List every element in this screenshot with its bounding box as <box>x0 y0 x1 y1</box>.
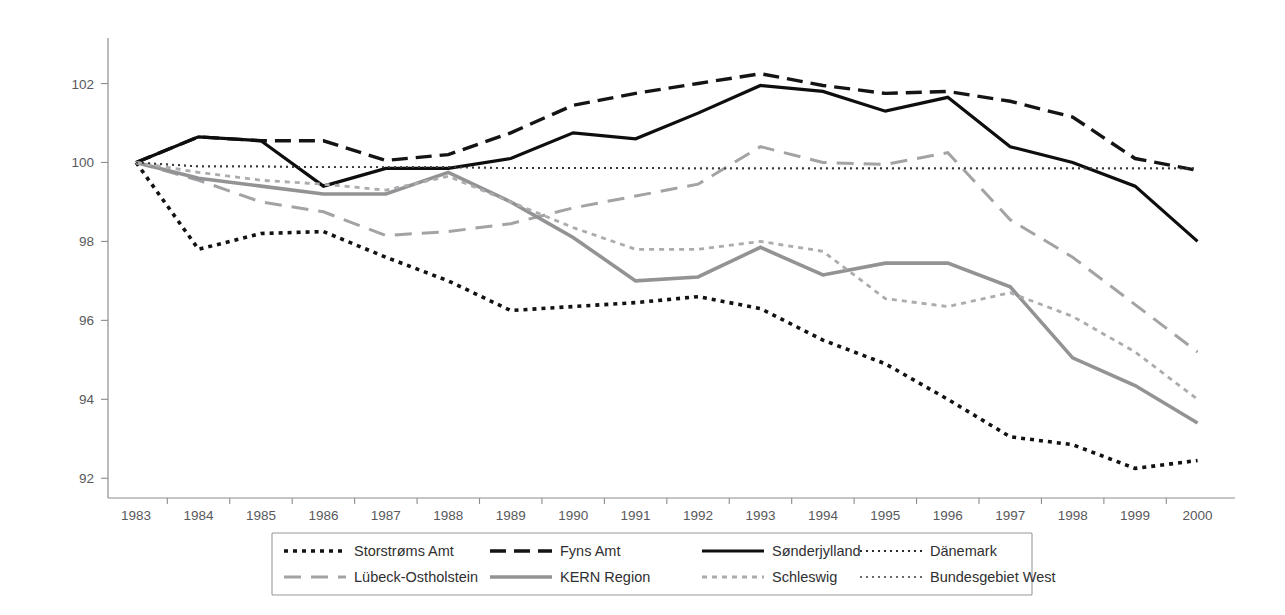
x-tick-label: 1988 <box>433 508 463 523</box>
x-tick-label: 1994 <box>808 508 839 523</box>
series-line-1 <box>136 74 1197 171</box>
series-line-6 <box>136 162 1197 399</box>
y-tick-label: 98 <box>79 234 94 249</box>
x-tick-label: 1998 <box>1058 508 1088 523</box>
x-tick-label: 1986 <box>308 508 338 523</box>
x-tick-label: 1991 <box>621 508 651 523</box>
x-tick-label: 1992 <box>683 508 713 523</box>
legend-label-6: Schleswig <box>772 569 837 585</box>
legend-label-2: Sønderjylland <box>772 543 861 559</box>
y-tick-label: 102 <box>71 77 94 92</box>
x-tick-label: 1989 <box>496 508 526 523</box>
x-axis: 1983198419851986198719881989199019911992… <box>108 498 1235 523</box>
x-tick-label: 1984 <box>184 508 215 523</box>
legend-label-7: Bundesgebiet West <box>930 569 1055 585</box>
x-tick-label: 1990 <box>558 508 588 523</box>
y-tick-label: 92 <box>79 471 94 486</box>
x-tick-label: 1996 <box>933 508 963 523</box>
y-axis: 92949698100102 <box>71 38 108 498</box>
chart-figure: 92949698100102 1983198419851986198719881… <box>0 0 1285 615</box>
legend-label-5: KERN Region <box>560 569 650 585</box>
x-tick-label: 1987 <box>371 508 401 523</box>
y-tick-label: 96 <box>79 313 94 328</box>
line-chart-canvas: 92949698100102 1983198419851986198719881… <box>0 0 1285 615</box>
y-tick-group: 92949698100102 <box>71 77 108 487</box>
chart-legend: Storstrøms AmtFyns AmtSønderjyllandDänem… <box>272 533 1055 595</box>
x-tick-label: 1999 <box>1120 508 1150 523</box>
legend-label-1: Fyns Amt <box>560 543 620 559</box>
y-tick-label: 94 <box>79 392 95 407</box>
x-tick-label: 1997 <box>995 508 1025 523</box>
y-tick-label: 100 <box>71 155 94 170</box>
x-tick-label: 1995 <box>870 508 900 523</box>
x-tick-group: 1983198419851986198719881989199019911992… <box>121 498 1212 523</box>
legend-label-4: Lübeck-Ostholstein <box>354 569 478 585</box>
legend-label-3: Dänemark <box>930 543 998 559</box>
x-tick-label: 2000 <box>1183 508 1213 523</box>
x-tick-label: 1983 <box>121 508 151 523</box>
series-line-5 <box>136 162 1197 423</box>
series-group <box>136 74 1197 469</box>
x-tick-label: 1993 <box>745 508 775 523</box>
x-tick-label: 1985 <box>246 508 276 523</box>
legend-label-0: Storstrøms Amt <box>354 543 454 559</box>
